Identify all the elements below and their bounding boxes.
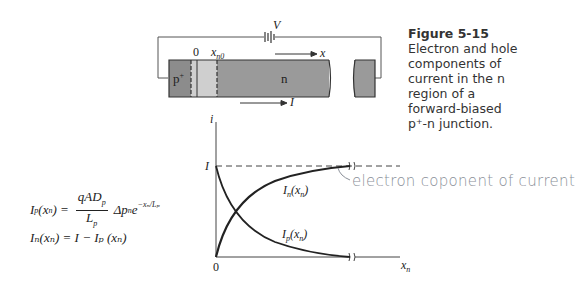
- annotation-pointer: [338, 168, 350, 180]
- current-label: I: [290, 95, 294, 110]
- xn0-label: xn0: [211, 45, 224, 61]
- figure-number: Figure 5-15: [408, 26, 558, 41]
- caption-line: Electron and hole: [408, 41, 558, 56]
- n-region-label: n: [281, 71, 288, 87]
- caption-line: forward-biased: [408, 101, 558, 116]
- figure-caption: Figure 5-15 Electron and hole components…: [408, 26, 558, 131]
- current-arrow: [240, 101, 287, 106]
- handwritten-note: electron coponent of current: [352, 172, 575, 190]
- origin-label: 0: [193, 45, 199, 60]
- y-axis-label: i: [210, 112, 213, 127]
- fraction: qADp Lp: [76, 190, 108, 230]
- x-axis-label: xn: [401, 258, 410, 274]
- caption-line: components of: [408, 56, 558, 71]
- p-region-label: p+: [173, 71, 184, 87]
- voltage-label: V: [273, 18, 280, 33]
- n-region-end: [354, 60, 375, 97]
- caption-line: p⁺-n junction.: [408, 116, 558, 131]
- electron-current-equation: Iₙ(xₙ) = I − Iₚ (xₙ): [30, 230, 127, 246]
- caption-line: region of a: [408, 86, 558, 101]
- depletion-region: [191, 60, 217, 97]
- electron-current-label: In(xn): [283, 183, 308, 199]
- hole-current-equation: Ip(xn) = qADp Lp Δpne−xₙ/Lₚ: [30, 190, 160, 230]
- origin-tick: 0: [213, 260, 219, 275]
- current-level-tick: I: [205, 159, 209, 174]
- x-direction-arrow: [275, 52, 317, 57]
- n-region: [217, 60, 329, 97]
- hole-current-label: Ip(xn): [282, 227, 307, 243]
- caption-line: current in the n: [408, 71, 558, 86]
- x-arrow-label: x: [320, 46, 325, 61]
